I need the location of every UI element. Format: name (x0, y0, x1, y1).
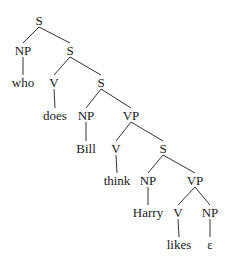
tree-edge (23, 27, 39, 43)
tree-node-does: does (43, 109, 67, 122)
tree-edge (195, 187, 210, 205)
tree-edge (178, 219, 179, 237)
tree-node-eps: ε (207, 238, 212, 251)
tree-edge (116, 155, 117, 173)
tree-node-bill: Bill (76, 142, 96, 155)
tree-edge (70, 57, 101, 75)
tree-node-v3: V (173, 206, 182, 219)
tree-node-think: think (104, 174, 131, 187)
tree-node-np3: NP (140, 174, 157, 187)
tree-node-likes: likes (167, 238, 192, 251)
tree-edge (178, 187, 195, 205)
tree-node-who: who (12, 76, 34, 89)
tree-node-s2: S (66, 44, 73, 57)
tree-node-np4: NP (202, 206, 219, 219)
tree-edge (163, 155, 195, 173)
syntax-tree-diagram: SNPSwhoVSdoesNPVPBillVSthinkNPVPHarryVNP… (0, 0, 229, 261)
tree-edge (131, 122, 163, 141)
tree-edge (101, 89, 131, 108)
tree-node-v2: V (111, 142, 120, 155)
tree-edge (54, 57, 70, 75)
tree-node-s1: S (35, 14, 42, 27)
tree-node-harry: Harry (133, 206, 163, 219)
tree-node-vp2: VP (187, 174, 204, 187)
tree-edge (54, 89, 55, 108)
tree-edge (116, 122, 131, 141)
tree-node-vp1: VP (123, 109, 140, 122)
tree-node-s3: S (97, 76, 104, 89)
tree-edge (148, 155, 163, 173)
tree-node-np2: NP (78, 109, 95, 122)
tree-node-np1: NP (15, 44, 32, 57)
tree-edge (86, 89, 101, 108)
tree-node-s4: S (159, 142, 166, 155)
tree-edges (0, 0, 229, 261)
tree-node-v1: V (49, 76, 58, 89)
tree-edge (39, 27, 70, 43)
